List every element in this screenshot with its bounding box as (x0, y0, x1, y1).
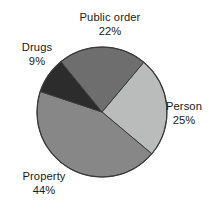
slice-label-property-value: 44% (6, 184, 82, 198)
slice-label-public-order-name: Public order (58, 11, 162, 25)
slice-label-public-order: Public order 22% (58, 11, 162, 38)
slice-label-drugs-value: 9% (6, 55, 68, 69)
slice-label-drugs: Drugs 9% (6, 41, 68, 68)
slice-label-person: Person 25% (155, 100, 213, 127)
slice-label-drugs-name: Drugs (6, 41, 68, 55)
slice-label-public-order-value: 22% (58, 25, 162, 39)
slice-label-property: Property 44% (6, 170, 82, 197)
slice-label-property-name: Property (6, 170, 82, 184)
slice-label-person-name: Person (155, 100, 213, 114)
pie-chart-screenshot: Public order 22% Drugs 9% Person 25% Pro… (0, 0, 214, 208)
slice-label-person-value: 25% (155, 114, 213, 128)
